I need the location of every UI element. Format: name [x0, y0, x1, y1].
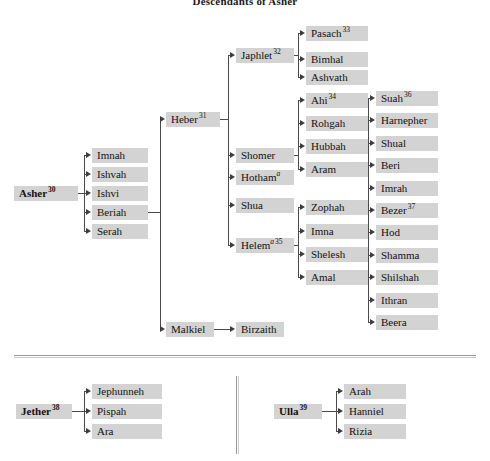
node-heber: Heber31 — [166, 112, 220, 127]
node-helem: Helema35 — [236, 238, 294, 253]
node-japhlet: Japhlet32 — [236, 48, 294, 63]
connector-trunk-beriah — [160, 119, 161, 329]
node-shamma: Shamma — [376, 248, 438, 263]
arrow-icon — [86, 388, 91, 394]
arrow-icon — [300, 74, 305, 80]
node-beera: Beera — [376, 315, 438, 330]
node-shelesh: Shelesh — [306, 247, 368, 262]
node-shual: Shual — [376, 136, 438, 151]
arrow-icon — [230, 326, 235, 332]
arrow-icon — [370, 185, 375, 191]
arrow-icon — [86, 228, 91, 234]
node-ara: Ara — [92, 424, 162, 439]
node-jephunneh: Jephunneh — [92, 384, 162, 399]
node-bezer: Bezer37 — [376, 203, 438, 218]
node-ishvah: Ishvah — [92, 167, 148, 182]
arrow-icon — [370, 319, 375, 325]
node-shua: Shua — [236, 198, 294, 213]
node-suah: Suah36 — [376, 91, 438, 106]
node-rizia: Rizia — [344, 424, 406, 439]
node-jether: Jether38 — [16, 404, 72, 419]
section-divider-vertical — [236, 376, 239, 454]
node-arah: Arah — [344, 384, 406, 399]
arrow-icon — [160, 326, 165, 332]
node-beriah: Beriah — [92, 205, 148, 220]
arrow-icon — [300, 143, 305, 149]
arrow-icon — [370, 162, 375, 168]
arrow-icon — [300, 251, 305, 257]
node-pasach: Pasach33 — [306, 26, 368, 41]
arrow-icon — [86, 152, 91, 158]
connector-beriah-stem — [148, 212, 160, 213]
arrow-icon — [300, 228, 305, 234]
arrow-icon — [370, 252, 375, 258]
arrow-icon — [230, 152, 235, 158]
arrow-icon — [338, 388, 343, 394]
arrow-icon — [230, 174, 235, 180]
connector-trunk-japhlet — [298, 33, 299, 77]
node-birzaith: Birzaith — [236, 322, 284, 337]
arrow-icon — [230, 202, 235, 208]
arrow-icon — [370, 207, 375, 213]
node-hanniel: Hanniel — [344, 404, 406, 419]
node-ulla: Ulla39 — [274, 404, 322, 419]
node-harnepher: Harnepher — [376, 113, 438, 128]
arrow-icon — [338, 428, 343, 434]
node-zophah: Zophah — [306, 200, 368, 215]
connector-ulla-stem — [322, 411, 336, 412]
node-hubbah: Hubbah — [306, 139, 368, 154]
arrow-icon — [370, 274, 375, 280]
node-ashvath: Ashvath — [306, 70, 368, 85]
node-imnah: Imnah — [92, 148, 148, 163]
node-aram: Aram — [306, 162, 368, 177]
connector-trunk-helem — [298, 207, 299, 277]
arrow-icon — [300, 56, 305, 62]
node-imna: Imna — [306, 224, 368, 239]
arrow-icon — [86, 428, 91, 434]
node-hotham: Hothama — [236, 170, 294, 185]
connector-trunk-heber — [228, 55, 229, 245]
node-ishvi: Ishvi — [92, 186, 148, 201]
arrow-icon — [300, 166, 305, 172]
section-divider-horizontal — [14, 355, 476, 358]
arrow-icon — [230, 52, 235, 58]
arrow-icon — [300, 30, 305, 36]
node-shomer: Shomer — [236, 148, 294, 163]
node-ahi: Ahi34 — [306, 93, 368, 108]
node-ithran: Ithran — [376, 293, 438, 308]
node-asher: Asher30 — [14, 186, 78, 201]
arrow-icon — [338, 408, 343, 414]
genealogy-chart: Descendants of Asher Asher30ImnahIshvahI… — [0, 0, 490, 461]
arrow-icon — [370, 140, 375, 146]
connector-trunk-shomer — [298, 100, 299, 169]
arrow-icon — [86, 171, 91, 177]
page-title: Descendants of Asher — [0, 0, 490, 7]
node-hod: Hod — [376, 225, 438, 240]
node-shilshah: Shilshah — [376, 270, 438, 285]
connector-jether-stem — [72, 411, 84, 412]
node-malkiel: Malkiel — [166, 322, 214, 337]
arrow-icon — [86, 408, 91, 414]
node-amal: Amal — [306, 270, 368, 285]
arrow-icon — [86, 209, 91, 215]
connector-heber-stem — [220, 119, 228, 120]
arrow-icon — [370, 297, 375, 303]
arrow-icon — [86, 190, 91, 196]
arrow-icon — [370, 117, 375, 123]
arrow-icon — [300, 120, 305, 126]
arrow-icon — [370, 95, 375, 101]
arrow-icon — [160, 116, 165, 122]
arrow-icon — [370, 229, 375, 235]
node-bimhal: Bimhal — [306, 52, 368, 67]
arrow-icon — [300, 97, 305, 103]
arrow-icon — [230, 242, 235, 248]
node-rohgah: Rohgah — [306, 116, 368, 131]
node-imrah: Imrah — [376, 181, 438, 196]
arrow-icon — [300, 204, 305, 210]
connector-malkiel-stem — [214, 329, 231, 330]
node-serah: Serah — [92, 224, 148, 239]
node-pispah: Pispah — [92, 404, 162, 419]
arrow-icon — [300, 274, 305, 280]
node-beri: Beri — [376, 158, 438, 173]
